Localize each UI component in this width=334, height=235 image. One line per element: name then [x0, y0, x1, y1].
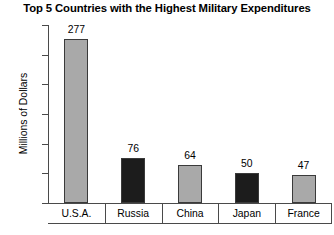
y-axis-tick-mark	[42, 144, 49, 145]
bar-value-label: 76	[108, 143, 158, 154]
y-axis-tick-mark	[42, 55, 49, 56]
bar-chart: Top 5 Countries with the Highest Militar…	[0, 0, 334, 235]
category-separator	[218, 203, 219, 224]
y-axis-label: Millions of Dollars	[18, 44, 29, 184]
bar-value-label: 64	[165, 150, 215, 161]
y-axis-tick-mark	[42, 84, 49, 85]
x-axis-category-label: Japan	[218, 203, 275, 224]
category-separator	[105, 203, 106, 224]
y-axis-tick-mark	[42, 25, 49, 26]
category-separator	[162, 203, 163, 224]
bar	[178, 165, 202, 203]
category-label-band: U.S.A.RussiaChinaJapanFrance	[48, 203, 332, 224]
bar	[235, 173, 259, 203]
bar	[292, 175, 316, 203]
bar	[121, 158, 145, 203]
y-axis-tick-mark	[42, 173, 49, 174]
bar-value-label: 277	[51, 24, 101, 35]
bar-value-label: 50	[222, 158, 272, 169]
chart-title: Top 5 Countries with the Highest Militar…	[0, 2, 334, 14]
x-axis-category-label: China	[162, 203, 219, 224]
category-separator	[275, 203, 276, 224]
y-axis-tick-mark	[42, 114, 49, 115]
bar	[64, 39, 88, 203]
x-axis-category-label: U.S.A.	[48, 203, 105, 224]
x-axis-category-label: France	[275, 203, 332, 224]
bar-value-label: 47	[279, 160, 329, 171]
x-axis-category-label: Russia	[105, 203, 162, 224]
